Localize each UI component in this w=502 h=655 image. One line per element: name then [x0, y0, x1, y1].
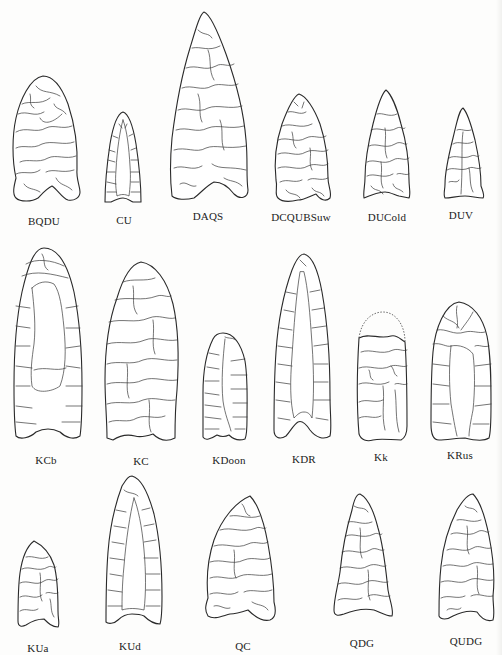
- point-label: KRus: [447, 449, 473, 461]
- point-label: DUCold: [368, 211, 406, 223]
- projectile-point-figure: BQDU CU DAQS DCQUBSuw DUCold: [0, 0, 502, 655]
- point-label: CU: [116, 214, 132, 226]
- point-label: KDoon: [212, 454, 245, 466]
- point-label: KC: [133, 455, 149, 467]
- point-label: Kk: [374, 451, 388, 463]
- point-label: QC: [235, 640, 251, 652]
- point-label: KDR: [292, 453, 316, 465]
- point-label: BQDU: [28, 215, 60, 227]
- point-label: DUV: [449, 209, 473, 221]
- point-label: KUd: [119, 640, 141, 652]
- page-edge-shadow: [496, 0, 502, 655]
- point-label: KCb: [35, 454, 56, 466]
- point-label: KUa: [27, 642, 48, 654]
- point-label: DAQS: [193, 210, 224, 222]
- point-label: QDG: [350, 637, 374, 649]
- point-label: DCQUBSuw: [271, 211, 331, 223]
- point-label: QUDG: [450, 635, 483, 647]
